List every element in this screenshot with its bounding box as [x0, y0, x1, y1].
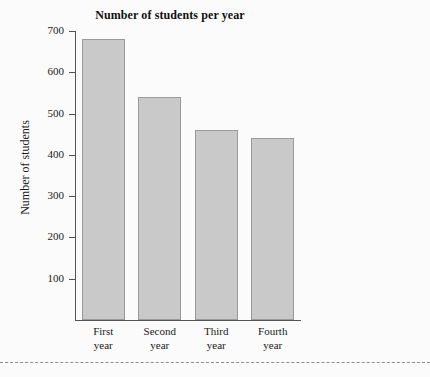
y-axis-line: [75, 31, 76, 321]
x-axis-tick-label-line: year: [75, 339, 132, 353]
x-axis-tick-label: Thirdyear: [188, 325, 245, 352]
x-axis-tick-label-line: year: [188, 339, 245, 353]
x-axis-tick-label: Secondyear: [132, 325, 189, 352]
x-axis-tick-label-line: Second: [132, 325, 189, 339]
y-axis-tick: [69, 196, 75, 197]
x-axis-tick-label-line: year: [132, 339, 189, 353]
x-axis-line: [75, 320, 301, 321]
y-axis-tick: [69, 237, 75, 238]
y-axis-tick: [69, 155, 75, 156]
y-axis-tick-label: 300: [30, 190, 64, 201]
bar: [195, 130, 238, 320]
x-axis-tick-label-line: year: [245, 339, 302, 353]
chart-figure: Number of students per year Number of st…: [0, 0, 430, 377]
bar: [82, 39, 125, 320]
y-axis-tick-label: 200: [30, 231, 64, 242]
y-axis-tick-label: 400: [30, 149, 64, 160]
y-axis-tick: [69, 31, 75, 32]
x-axis-tick-label: Fourthyear: [245, 325, 302, 352]
x-axis-tick-label-line: Third: [188, 325, 245, 339]
y-axis-tick: [69, 279, 75, 280]
bar: [138, 97, 181, 320]
x-axis-tick-label: Firstyear: [75, 325, 132, 352]
chart-title: Number of students per year: [0, 8, 340, 23]
x-axis-tick-label-line: First: [75, 325, 132, 339]
y-axis-tick-label: 700: [30, 25, 64, 36]
bar: [251, 138, 294, 320]
y-axis-tick-label: 100: [30, 273, 64, 284]
y-axis-tick-label: 600: [30, 66, 64, 77]
x-axis-tick-label-line: Fourth: [245, 325, 302, 339]
bottom-divider: [0, 362, 430, 363]
y-axis-tick-label: 500: [30, 108, 64, 119]
y-axis-tick: [69, 114, 75, 115]
y-axis-tick: [69, 72, 75, 73]
